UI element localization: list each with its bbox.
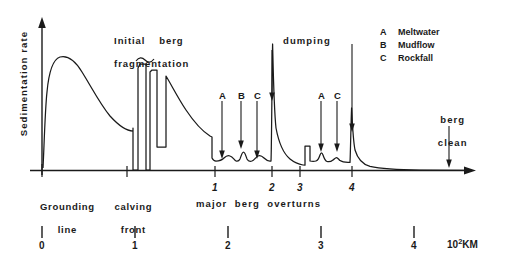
legend-key-b: B <box>380 39 389 52</box>
calving-front-label: calving front <box>94 190 166 235</box>
overturn-4-arrow <box>349 44 355 132</box>
legend: A Meltwater B Mudflow C Rockfall <box>380 26 440 64</box>
legend-label-a: Meltwater <box>398 26 440 39</box>
scale-number-4: 4 <box>411 240 417 252</box>
scale-number-3: 3 <box>318 240 324 252</box>
scale-number-1: 1 <box>132 240 138 252</box>
y-axis <box>38 17 46 175</box>
overturn-number-4: 4 <box>349 182 355 194</box>
grounding-line-text-1: Grounding <box>40 201 95 212</box>
legend-item-a: A Meltwater <box>380 26 440 39</box>
initial-fragmentation-line-1: Initial berg <box>114 35 183 46</box>
scale-number-0: 0 <box>39 240 45 252</box>
unit-mantissa: 10 <box>447 239 458 250</box>
legend-item-b: B Mudflow <box>380 39 440 52</box>
y-axis-label: Sedimentation rate <box>18 24 29 144</box>
grounding-line-text-2: line <box>58 224 77 235</box>
annotation-arrows-group-2 <box>318 101 340 152</box>
legend-label-b: Mudflow <box>398 39 435 52</box>
initial-fragmentation-annotation: Initial berg fragmentation <box>107 24 189 69</box>
overturn-number-2: 2 <box>269 182 275 194</box>
legend-label-c: Rockfall <box>398 52 433 65</box>
event-marker-label-c1: C <box>254 90 261 101</box>
x-axis <box>30 166 476 174</box>
annotation-arrows-group-1 <box>219 101 260 159</box>
unit-suffix: KM <box>462 239 478 250</box>
event-marker-label-a2: A <box>318 90 325 101</box>
scale-number-2: 2 <box>225 240 231 252</box>
overturn-number-1: 1 <box>212 182 218 194</box>
initial-fragmentation-line-2: fragmentation <box>114 58 189 69</box>
legend-item-c: C Rockfall <box>380 52 440 65</box>
legend-key-c: C <box>380 52 389 65</box>
calving-front-text-1: calving <box>115 201 153 212</box>
event-marker-label-c2: C <box>334 90 341 101</box>
distance-unit-label: 102KM <box>447 238 478 251</box>
berg-clean-line-1: berg <box>440 114 465 125</box>
overturn-number-3: 3 <box>297 182 303 194</box>
legend-key-a: A <box>380 26 389 39</box>
event-marker-label-a1: A <box>219 90 226 101</box>
grounding-line-label: Grounding line <box>28 190 100 235</box>
major-berg-overturns-label: major berg overturns <box>196 198 321 209</box>
berg-clean-line-2: clean <box>438 137 468 148</box>
calving-front-text-2: front <box>121 224 146 235</box>
event-marker-label-b1: B <box>238 90 245 101</box>
berg-clean-annotation: berg clean <box>428 103 470 148</box>
dumping-annotation: dumping <box>283 35 331 46</box>
